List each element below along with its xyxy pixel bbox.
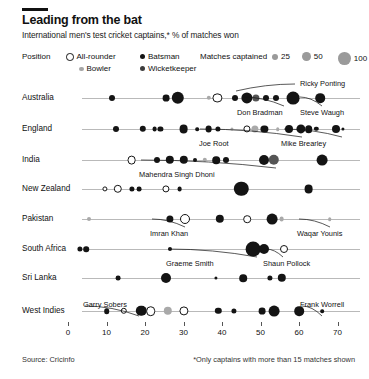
legend-size-swatch <box>302 52 311 61</box>
data-point[interactable] <box>342 127 345 130</box>
data-point[interactable] <box>280 245 288 253</box>
data-point[interactable] <box>113 126 119 132</box>
data-point[interactable] <box>231 308 236 313</box>
data-point[interactable] <box>102 186 107 191</box>
data-point[interactable] <box>245 242 260 257</box>
data-point[interactable] <box>332 125 340 133</box>
data-point[interactable] <box>152 127 157 132</box>
data-point[interactable] <box>239 274 247 282</box>
x-axis: 010203040506070 <box>0 322 369 348</box>
data-point[interactable] <box>268 275 273 280</box>
data-point[interactable] <box>305 125 313 133</box>
legend-position-item-all-rounder: All-rounder <box>66 52 116 61</box>
data-point[interactable] <box>104 308 110 314</box>
data-point[interactable] <box>109 95 115 101</box>
row-axis-line <box>82 249 360 250</box>
data-point[interactable] <box>328 217 332 221</box>
data-point[interactable] <box>216 215 224 223</box>
data-point[interactable] <box>285 125 293 133</box>
data-point[interactable] <box>116 276 121 281</box>
data-point[interactable] <box>179 306 188 315</box>
data-point[interactable] <box>269 155 279 165</box>
data-point[interactable] <box>234 182 248 196</box>
data-point[interactable] <box>179 156 187 164</box>
data-point[interactable] <box>259 244 269 254</box>
data-point[interactable] <box>259 308 266 315</box>
data-point[interactable] <box>213 93 222 102</box>
data-point[interactable] <box>154 157 160 163</box>
data-point[interactable] <box>136 306 146 316</box>
data-point[interactable] <box>179 125 188 134</box>
data-point[interactable] <box>158 126 163 131</box>
legend-size-item-100: 100 <box>338 52 367 65</box>
data-point[interactable] <box>243 215 251 223</box>
data-point[interactable] <box>320 309 324 313</box>
data-point[interactable] <box>114 185 122 193</box>
data-point[interactable] <box>314 127 318 131</box>
data-point[interactable] <box>261 125 268 132</box>
data-point[interactable] <box>177 187 182 192</box>
x-tick <box>184 322 185 326</box>
data-point[interactable] <box>77 246 82 251</box>
legend-position-item-batsman: Batsman <box>140 52 180 61</box>
data-point[interactable] <box>269 306 280 317</box>
data-point[interactable] <box>223 157 229 163</box>
data-point[interactable] <box>87 217 91 221</box>
data-point[interactable] <box>206 96 210 100</box>
data-point[interactable] <box>273 95 279 101</box>
data-point[interactable] <box>216 126 221 131</box>
legend-swatch-filled <box>140 54 145 59</box>
data-point[interactable] <box>129 186 134 191</box>
legend-size-label: 100 <box>354 54 367 63</box>
data-point[interactable] <box>163 185 170 192</box>
data-point[interactable] <box>279 217 284 222</box>
data-point[interactable] <box>267 214 278 225</box>
data-point[interactable] <box>212 156 220 164</box>
x-tick-label: 50 <box>256 328 265 337</box>
data-point[interactable] <box>232 95 238 101</box>
data-point[interactable] <box>168 247 172 251</box>
row-label-sri-lanka: Sri Lanka <box>22 273 57 282</box>
data-point[interactable] <box>172 92 184 104</box>
data-point[interactable] <box>140 126 146 132</box>
data-point[interactable] <box>251 125 258 132</box>
data-point[interactable] <box>180 214 190 224</box>
data-point[interactable] <box>277 274 285 282</box>
data-point[interactable] <box>317 155 328 166</box>
data-point[interactable] <box>252 94 259 101</box>
row-label-india: India <box>22 155 40 164</box>
data-point[interactable] <box>241 92 252 103</box>
row-label-pakistan: Pakistan <box>22 214 53 223</box>
data-point[interactable] <box>263 95 269 101</box>
data-point[interactable] <box>202 158 206 162</box>
data-point[interactable] <box>166 156 174 164</box>
data-point[interactable] <box>276 127 280 131</box>
data-point[interactable] <box>215 276 218 279</box>
data-point[interactable] <box>163 95 170 102</box>
data-point[interactable] <box>146 306 156 316</box>
data-point[interactable] <box>315 93 325 103</box>
legend-position-item-wicketkeeper: Wicketkeeper <box>140 64 196 73</box>
data-point[interactable] <box>193 158 197 162</box>
data-point[interactable] <box>287 92 300 105</box>
data-point[interactable] <box>230 127 233 130</box>
data-point[interactable] <box>161 273 171 283</box>
row-axis-line <box>82 129 360 130</box>
data-point[interactable] <box>205 126 212 133</box>
x-tick-label: 10 <box>102 328 111 337</box>
data-point[interactable] <box>243 125 250 132</box>
annotation-label-frank-worrell: Frank Worrell <box>300 300 344 309</box>
x-tick <box>107 322 108 326</box>
legend-size-item-50: 50 <box>302 52 323 61</box>
data-point[interactable] <box>215 308 221 314</box>
data-point[interactable] <box>137 187 142 192</box>
data-point[interactable] <box>127 156 136 165</box>
annotation-label-joe-root: Joe Root <box>199 139 229 148</box>
data-point[interactable] <box>84 246 90 252</box>
data-point[interactable] <box>166 215 173 222</box>
data-point[interactable] <box>304 185 313 194</box>
legend-label: Wicketkeeper <box>148 64 196 73</box>
data-point[interactable] <box>195 127 199 131</box>
data-point[interactable] <box>164 307 172 315</box>
legend-label: Bowler <box>87 64 111 73</box>
